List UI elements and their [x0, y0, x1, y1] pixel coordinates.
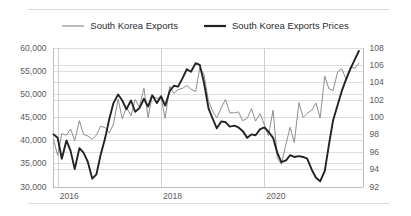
chart-svg: 60,00055,00050,00045,00040,00035,00030,0… [0, 0, 411, 216]
chart-card: South Korea Exports South Korea Exports … [0, 0, 411, 216]
x-axis-tick-label: 2016 [60, 191, 79, 201]
y-axis-tick-label-left: 45,000 [20, 112, 47, 122]
y-axis-tick-label-right: 98 [370, 129, 380, 139]
y-axis-tick-label-left: 55,000 [20, 66, 47, 76]
series-line-exports [54, 63, 359, 164]
y-axis-tick-label-right: 108 [370, 43, 385, 53]
plot-area: 60,00055,00050,00045,00040,00035,00030,0… [0, 0, 411, 216]
y-axis-tick-label-right: 96 [370, 147, 380, 157]
y-axis-tick-label-right: 94 [370, 164, 380, 174]
y-axis-tick-label-left: 60,000 [20, 43, 47, 53]
y-axis-tick-label-left: 30,000 [20, 182, 47, 192]
y-axis-tick-label-right: 102 [370, 95, 385, 105]
y-axis-tick-label-right: 106 [370, 60, 385, 70]
x-axis-tick-label: 2020 [266, 191, 285, 201]
y-axis-tick-label-left: 50,000 [20, 89, 47, 99]
x-axis-tick-label: 2018 [163, 191, 182, 201]
y-axis-tick-label-right: 104 [370, 77, 385, 87]
y-axis-tick-label-right: 92 [370, 182, 380, 192]
series-line-exports-prices [54, 51, 359, 181]
y-axis-tick-label-right: 100 [370, 112, 385, 122]
y-axis-tick-label-left: 40,000 [20, 135, 47, 145]
y-axis-tick-label-left: 35,000 [20, 158, 47, 168]
